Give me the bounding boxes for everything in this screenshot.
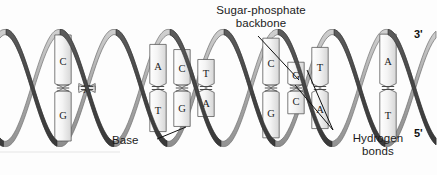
base-letter-bottom: A xyxy=(316,104,324,115)
base-letter-top: A xyxy=(154,61,162,72)
base-letter-top: A xyxy=(384,56,392,67)
dna-double-helix-figure: CGATATCGTACGGCTAAT Sugar-phosphate backb… xyxy=(0,0,437,175)
base-letter-bottom: C xyxy=(292,96,299,107)
label-hydrogen-bonds: Hydrogen bonds xyxy=(330,132,426,158)
base-letter-top: T xyxy=(203,68,210,79)
base-letter-top: C xyxy=(178,63,185,74)
label-base: Base xyxy=(112,134,154,147)
base-letter-top: C xyxy=(59,56,66,67)
base-letter-top: C xyxy=(267,58,274,69)
label-sugar-phosphate-backbone: Sugar-phosphate backbone xyxy=(196,4,326,30)
base-letter-bottom: T xyxy=(155,105,162,116)
base-pair: CG xyxy=(55,35,71,141)
label-five-prime-end: 5' xyxy=(414,127,423,139)
base-letter-bottom: G xyxy=(59,110,67,121)
base-letter-bottom: G xyxy=(178,103,186,114)
label-three-prime-end: 3' xyxy=(414,28,423,40)
base-pair: CG xyxy=(263,38,279,138)
base-letter-bottom: T xyxy=(385,110,392,121)
base-letter-bottom: G xyxy=(267,108,275,119)
base-letter-top: T xyxy=(317,62,324,73)
